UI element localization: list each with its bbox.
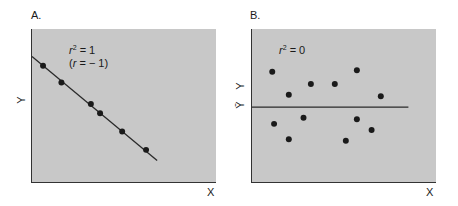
panel-a-y-axis-label: Y	[15, 96, 27, 103]
panel-a-scatter	[32, 29, 216, 182]
panel-b-x-axis-label: X	[426, 186, 433, 198]
panel-b-y-axis-label: Y	[234, 82, 246, 89]
r-value-text: (r = − 1)	[69, 57, 108, 70]
data-point	[40, 63, 46, 69]
panel-b-annotation: r2 = 0	[279, 41, 305, 57]
line	[32, 57, 157, 161]
data-point	[58, 80, 64, 86]
panel-a-x-axis-label: X	[207, 186, 214, 198]
data-point	[354, 67, 360, 73]
data-point	[286, 136, 292, 142]
panel-a-plot: r2 = 1 (r = − 1)	[31, 29, 216, 183]
data-point	[271, 121, 277, 127]
data-point	[301, 115, 307, 121]
data-point	[343, 138, 349, 144]
data-point	[97, 110, 103, 116]
panel-b-label: B.	[250, 9, 260, 21]
data-point	[308, 81, 314, 87]
data-point	[269, 69, 275, 75]
data-point	[119, 129, 125, 135]
data-point	[88, 101, 94, 107]
r-squared-text: r2 = 0	[279, 41, 305, 57]
panel-b-plot: r2 = 0	[251, 29, 436, 183]
data-point	[354, 116, 360, 122]
data-point	[332, 81, 338, 87]
panel-a-annotation: r2 = 1 (r = − 1)	[69, 41, 108, 70]
data-point	[378, 93, 384, 99]
panel-b-mean-y-label: Ȳ	[234, 101, 246, 108]
data-point	[286, 92, 292, 98]
panel-a-label: A.	[31, 9, 41, 21]
r-squared-text: r2 = 1	[69, 41, 108, 57]
data-point	[369, 127, 375, 133]
data-point	[143, 147, 149, 153]
